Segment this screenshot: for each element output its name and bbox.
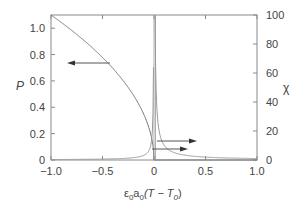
x-tick-label: 1.0	[249, 165, 264, 177]
arrow-left-icon	[67, 61, 110, 66]
x-axis-label: ε0a0(T − T0)	[124, 187, 182, 202]
x-tick-label: 0	[151, 165, 157, 177]
tick-labels: −1.0−0.500.51.000.20.40.60.81.0020406080…	[30, 9, 285, 177]
chi-curve-left	[51, 67, 153, 159]
y-left-tick-label: 0	[39, 154, 45, 166]
chi-curve-right	[155, 15, 257, 159]
x-tick-label: −0.5	[92, 165, 114, 177]
y-left-tick-label: 0.8	[30, 49, 45, 61]
y-right-tick-label: 20	[266, 125, 278, 137]
chart: −1.0−0.500.51.000.20.40.60.81.0020406080…	[0, 0, 305, 209]
y-axis-right-label: χ	[283, 81, 290, 95]
y-right-tick-label: 80	[266, 38, 278, 50]
x-tick-label: −1.0	[40, 165, 62, 177]
y-left-tick-label: 0.2	[30, 128, 45, 140]
x-tick-label: 0.5	[198, 165, 213, 177]
y-axis-left-label: P	[16, 79, 24, 93]
y-right-tick-label: 40	[266, 96, 278, 108]
y-right-tick-label: 60	[266, 67, 278, 79]
y-left-tick-label: 1.0	[30, 22, 45, 34]
y-left-tick-label: 0.6	[30, 75, 45, 87]
y-right-tick-label: 100	[266, 9, 284, 21]
y-right-tick-label: 0	[266, 154, 272, 166]
y-left-tick-label: 0.4	[30, 101, 45, 113]
